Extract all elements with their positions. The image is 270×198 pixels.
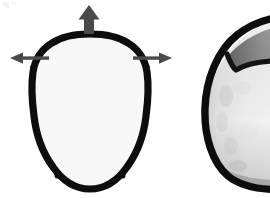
arrow-right-shaft [133, 56, 161, 59]
cranial-growth-figure: Superior view of infant cranium with gro… [0, 0, 270, 198]
arrow-left-shaft [21, 56, 49, 59]
figure-canvas [0, 0, 270, 198]
skull-left-cranial-outline [32, 34, 148, 189]
